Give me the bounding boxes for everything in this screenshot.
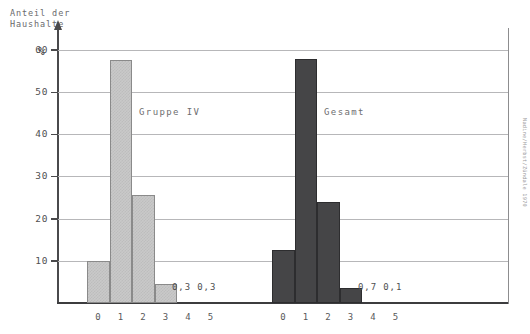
x-tick-label: 3 xyxy=(159,312,173,322)
y-tick-label: 40 xyxy=(0,128,48,139)
y-axis-tick xyxy=(51,92,58,94)
bar xyxy=(272,250,295,303)
x-tick-label: 2 xyxy=(136,312,150,322)
chart-figure: Anteil derHaushalte % 605040302010 Grupp… xyxy=(0,0,530,334)
bar xyxy=(317,202,340,303)
y-axis-tick xyxy=(51,218,58,220)
x-tick-label: 3 xyxy=(344,312,358,322)
y-tick-label: 20 xyxy=(0,213,48,224)
x-tick-label: 5 xyxy=(389,312,403,322)
y-tick-label: 10 xyxy=(0,255,48,266)
bar xyxy=(110,60,133,303)
x-tick-label: 2 xyxy=(321,312,335,322)
bar xyxy=(295,59,318,303)
x-tick-label: 1 xyxy=(299,312,313,322)
y-tick-label: 60 xyxy=(0,44,48,55)
y-axis-tick xyxy=(51,176,58,178)
x-tick-label: 0 xyxy=(276,312,290,322)
x-tick-label: 4 xyxy=(181,312,195,322)
group-label-right: Gesamt xyxy=(324,107,365,117)
y-axis-title-line1: Anteil der xyxy=(10,8,70,18)
y-tick-label: 30 xyxy=(0,170,48,181)
x-tick-label: 5 xyxy=(204,312,218,322)
bar xyxy=(132,195,155,303)
small-values-left: 0,3 0,3 xyxy=(172,282,216,292)
y-axis-tick xyxy=(51,49,58,51)
plot-right-border xyxy=(508,28,509,304)
small-values-right: 0,7 0,1 xyxy=(358,282,402,292)
group-label-left: Gruppe IV xyxy=(139,107,200,117)
source-credit: Nadine/Herbst/Zündale 1970 xyxy=(522,118,528,207)
x-tick-label: 0 xyxy=(91,312,105,322)
x-tick-label: 1 xyxy=(114,312,128,322)
y-axis-tick xyxy=(51,260,58,262)
bars-layer xyxy=(58,50,508,303)
y-axis-tick xyxy=(51,134,58,136)
bar xyxy=(87,261,110,303)
y-tick-label: 50 xyxy=(0,86,48,97)
x-tick-label: 4 xyxy=(366,312,380,322)
